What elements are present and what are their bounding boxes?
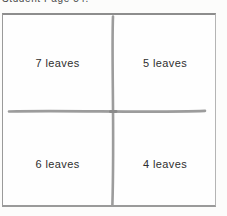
quadrant-bottom-left: 6 leaves	[3, 113, 112, 207]
quadrant-bottom-right: 4 leaves	[114, 113, 216, 207]
quadrant-label: 4 leaves	[143, 158, 187, 170]
quadrant-label: 6 leaves	[35, 158, 79, 170]
quadrant-label: 7 leaves	[35, 57, 79, 69]
clipped-header-text: Student Page 54.	[2, 0, 132, 6]
worksheet-page: Student Page 54. 7 leaves 5 leaves 6 lea…	[0, 0, 227, 216]
quadrant-top-left: 7 leaves	[3, 15, 112, 111]
quadrant-top-right: 5 leaves	[114, 15, 216, 111]
quadrant-label: 5 leaves	[143, 57, 187, 69]
header-text: Student Page 54.	[2, 0, 132, 5]
